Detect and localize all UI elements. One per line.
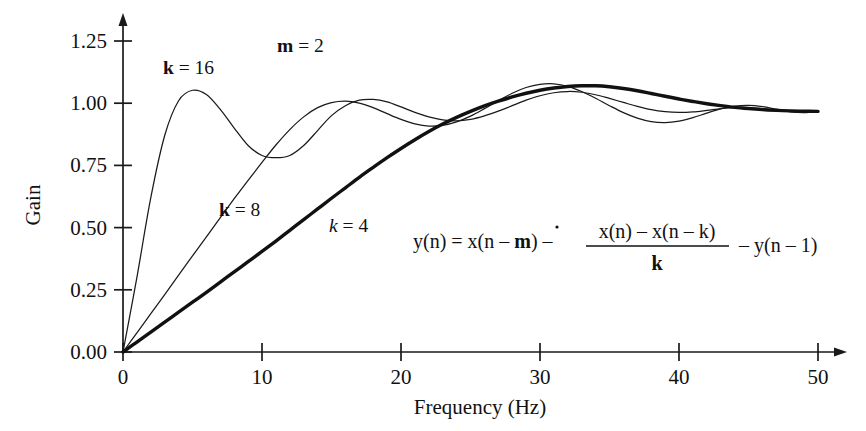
y-tick-label-3: 0.75 <box>70 153 107 177</box>
annotation-k4-symbol: k <box>329 215 338 236</box>
x-axis <box>123 348 847 357</box>
gain-frequency-chart: 0.00 0.25 0.50 0.75 1.00 1.25 0 10 20 30… <box>0 0 866 431</box>
annotation-m: m = 2 <box>277 35 324 56</box>
x-axis-arrow-icon <box>834 348 847 357</box>
y-tick-label-2: 0.50 <box>70 216 107 240</box>
equation-lhs-text: y(n) = x(n – <box>413 230 514 253</box>
annotation-m-symbol: m <box>277 35 293 56</box>
x-tick-label-3: 30 <box>530 365 551 389</box>
annotation-k8-symbol: k <box>219 199 230 220</box>
y-axis <box>119 13 128 352</box>
y-tick-label-5: 1.25 <box>70 29 107 53</box>
equation: y(n) = x(n – m) – x(n) – x(n – k) k – y(… <box>413 220 817 274</box>
x-ticks: 0 10 20 30 40 50 <box>118 343 829 389</box>
x-tick-label-1: 10 <box>252 365 273 389</box>
equation-dot-accent-icon <box>555 225 558 228</box>
annotation-k4: k = 4 <box>329 215 368 236</box>
x-tick-label-2: 20 <box>391 365 412 389</box>
equation-rhs: – y(n – 1) <box>738 234 817 257</box>
curve-annotations: k = 16 m = 2 k = 8 k = 4 <box>163 35 368 236</box>
equation-numerator: x(n) – x(n – k) <box>599 220 716 243</box>
chart-svg: 0.00 0.25 0.50 0.75 1.00 1.25 0 10 20 30… <box>0 0 866 431</box>
annotation-k8: k = 8 <box>219 199 260 220</box>
x-tick-label-5: 50 <box>808 365 829 389</box>
annotation-k16-symbol: k <box>163 57 174 78</box>
equation-lhs-tail: ) – <box>531 230 554 253</box>
x-axis-title: Frequency (Hz) <box>414 395 546 419</box>
annotation-k4-rest: = 4 <box>338 215 369 236</box>
x-tick-label-0: 0 <box>118 365 129 389</box>
equation-denominator: k <box>651 252 663 274</box>
y-tick-label-1: 0.25 <box>70 278 107 302</box>
equation-lhs: y(n) = x(n – m) – <box>413 230 554 253</box>
y-tick-label-4: 1.00 <box>70 91 107 115</box>
y-tick-label-0: 0.00 <box>70 340 107 364</box>
annotation-m-rest: = 2 <box>293 35 324 56</box>
annotation-k16: k = 16 <box>163 57 214 78</box>
x-tick-label-4: 40 <box>669 365 690 389</box>
annotation-k8-rest: = 8 <box>230 199 261 220</box>
annotation-k16-rest: = 16 <box>174 57 214 78</box>
y-axis-title: Gain <box>21 184 45 225</box>
equation-lhs-symbol: m <box>514 230 531 252</box>
y-axis-arrow-icon <box>119 13 128 26</box>
